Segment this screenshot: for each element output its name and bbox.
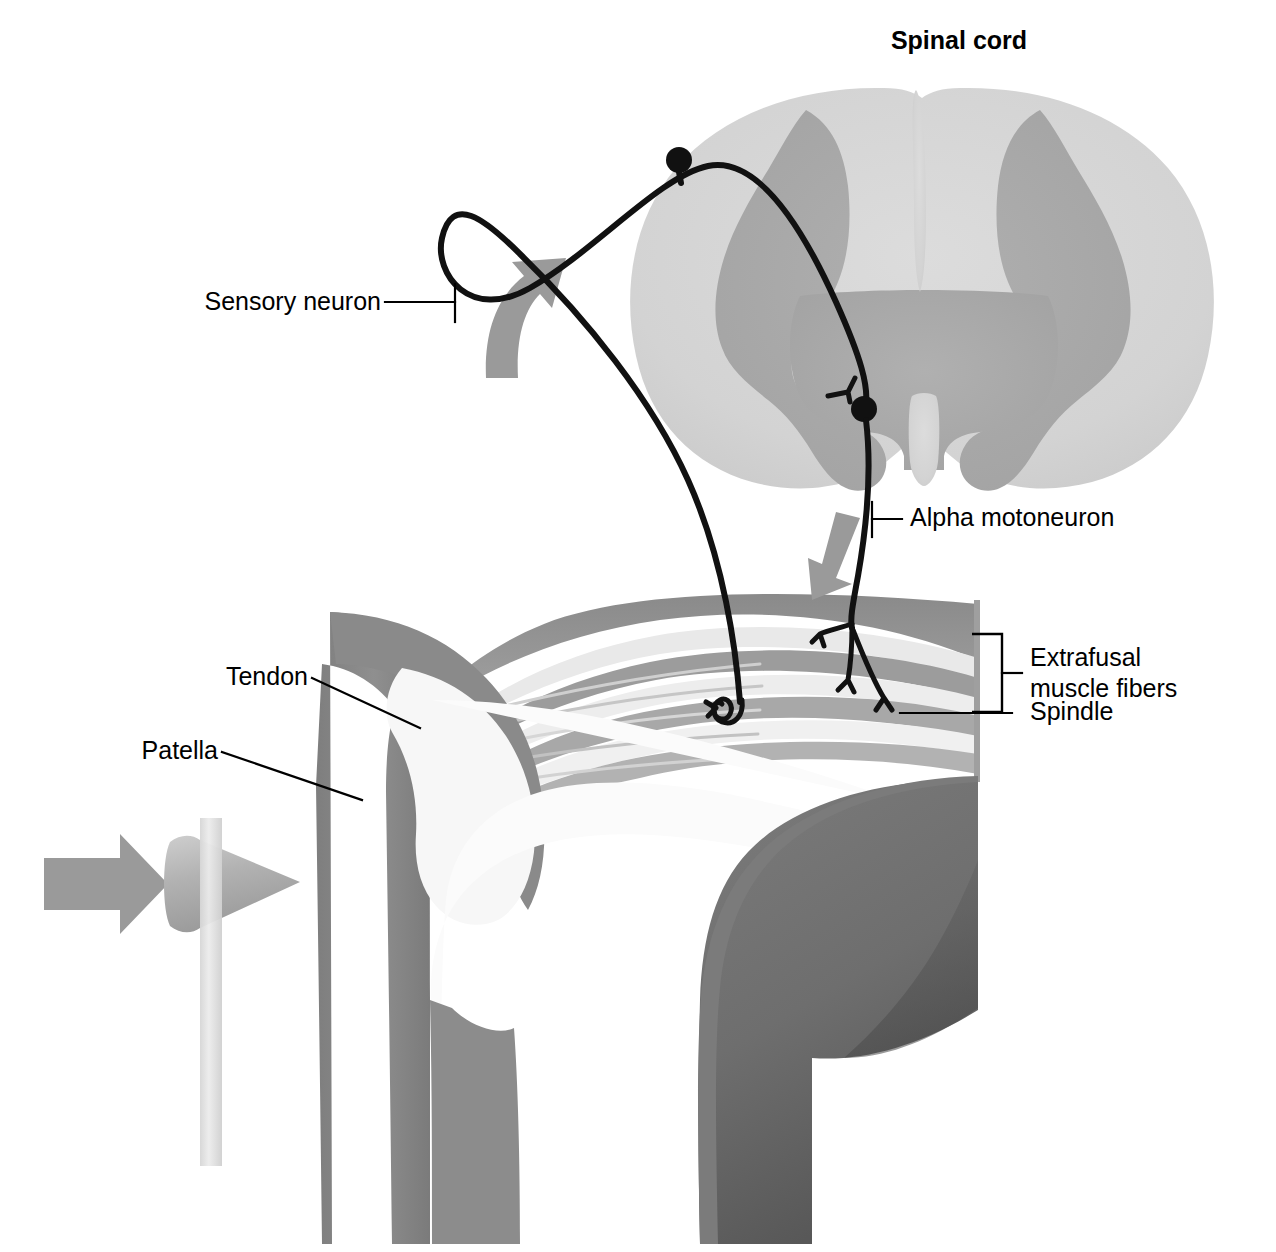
- hammer-handle-front: [200, 818, 222, 1166]
- figure-canvas: Spinal cord Sensory neuron Alpha motoneu…: [0, 0, 1276, 1252]
- patella-label: Patella: [142, 736, 219, 764]
- central-canal: [909, 393, 940, 486]
- dorsal-root-ganglion: [666, 147, 692, 173]
- extrafusal-label-line1: Extrafusal: [1030, 643, 1141, 671]
- spinal-cord-label: Spinal cord: [891, 26, 1027, 54]
- alpha-motoneuron-label: Alpha motoneuron: [910, 503, 1114, 531]
- tibia-plateau: [430, 1000, 520, 1244]
- muscle-cut-edge: [974, 600, 980, 782]
- spinal-cord-group: [630, 88, 1214, 491]
- ganglion-stalk: [679, 172, 681, 183]
- spindle-label: Spindle: [1030, 697, 1113, 725]
- sensory-neuron-label: Sensory neuron: [204, 287, 381, 315]
- tendon-label: Tendon: [226, 662, 308, 690]
- stretch-reflex-diagram: Spinal cord Sensory neuron Alpha motoneu…: [0, 0, 1276, 1252]
